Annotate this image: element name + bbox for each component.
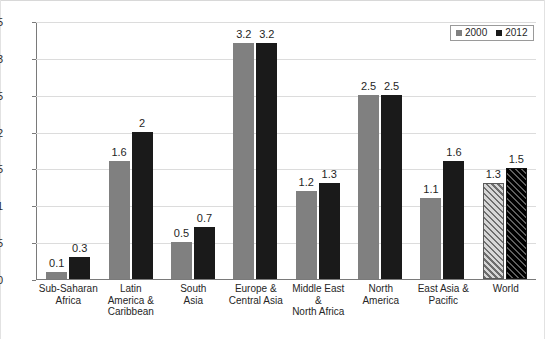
- bar-group: 1.31.5: [474, 22, 536, 279]
- bar-column: 2.5: [381, 22, 402, 279]
- bar-2012[interactable]: [194, 227, 215, 279]
- y-axis-tick-label: 0: [0, 274, 3, 286]
- bar-column: 1.6: [109, 22, 130, 279]
- x-axis-label-line: Asia: [163, 295, 224, 307]
- bar-group: 1.62: [99, 22, 161, 279]
- x-axis-category-labels: Sub-SaharanAfricaLatin America &Caribbea…: [37, 283, 537, 318]
- bar-column: 0.1: [46, 22, 67, 279]
- x-axis-label-line: Caribbean: [101, 306, 162, 318]
- bar-value-label: 1.5: [509, 154, 524, 165]
- y-axis-tick-mark: [32, 96, 36, 97]
- legend-label-2000: 2000: [465, 28, 487, 38]
- bar-2012[interactable]: [319, 183, 340, 279]
- y-axis-tick-label: 1.5: [0, 163, 3, 175]
- bar-2000[interactable]: [109, 161, 130, 279]
- x-axis-label-line: North Africa: [288, 306, 349, 318]
- bar-group: 1.21.3: [287, 22, 349, 279]
- bar-column: 0.3: [69, 22, 90, 279]
- bar-2000[interactable]: [358, 95, 379, 279]
- x-axis-label-line: Sub-Saharan: [38, 283, 99, 295]
- bar-2000[interactable]: [483, 183, 504, 279]
- x-axis-label-line: Middle East &: [288, 283, 349, 306]
- legend-label-2012: 2012: [505, 28, 527, 38]
- bar-value-label: 1.6: [111, 147, 126, 158]
- bar-value-label: 1.6: [446, 147, 461, 158]
- x-axis-label: World: [475, 283, 538, 318]
- legend-item-2012[interactable]: 2012: [496, 28, 527, 38]
- bar-group: 2.52.5: [349, 22, 411, 279]
- bar-2000[interactable]: [171, 242, 192, 279]
- x-axis-label-line: Pacific: [413, 295, 474, 307]
- bar-group: 1.11.6: [411, 22, 473, 279]
- bar-2012[interactable]: [443, 161, 464, 279]
- bar-value-label: 1.1: [423, 184, 438, 195]
- bar-column: 0.7: [194, 22, 215, 279]
- x-axis-label: Sub-SaharanAfrica: [37, 283, 100, 318]
- x-axis-label-line: East Asia &: [413, 283, 474, 295]
- bar-2012[interactable]: [132, 132, 153, 279]
- bar-2012[interactable]: [506, 168, 527, 279]
- bar-group: 0.10.3: [37, 22, 99, 279]
- bar-column: 1.1: [420, 22, 441, 279]
- bar-column: 1.3: [483, 22, 504, 279]
- bar-2012[interactable]: [69, 257, 90, 279]
- y-axis-tick-mark: [32, 280, 36, 281]
- series-2012-swatch-icon: [496, 30, 502, 36]
- bar-column: 1.6: [443, 22, 464, 279]
- bar-value-label: 2.5: [384, 81, 399, 92]
- caption-strip: [0, 332, 545, 339]
- bar-2000[interactable]: [296, 191, 317, 279]
- x-axis-label-line: Latin America &: [101, 283, 162, 306]
- bar-column: 3.2: [233, 22, 254, 279]
- bar-2000[interactable]: [233, 43, 254, 279]
- bar-group: 3.23.2: [224, 22, 286, 279]
- bar-value-label: 2: [139, 118, 145, 129]
- x-axis-label-line: Europe &: [226, 283, 287, 295]
- bar-column: 2: [132, 22, 153, 279]
- legend-item-2000[interactable]: 2000: [456, 28, 487, 38]
- y-axis-tick-label: 3.5: [0, 16, 3, 28]
- bar-value-label: 1.2: [299, 177, 314, 188]
- plot-area: 0.10.31.620.50.73.23.21.21.32.52.51.11.6…: [36, 22, 536, 280]
- bar-column: 2.5: [358, 22, 379, 279]
- chart-legend[interactable]: 2000 2012: [450, 25, 534, 41]
- bar-2012[interactable]: [381, 95, 402, 279]
- bar-value-label: 0.1: [49, 258, 64, 269]
- y-axis-tick-mark: [32, 243, 36, 244]
- y-axis-tick-mark: [32, 59, 36, 60]
- bar-group: 0.50.7: [162, 22, 224, 279]
- x-axis-line: [36, 279, 536, 280]
- x-axis-label: Middle East &North Africa: [287, 283, 350, 318]
- x-axis-label: Latin America &Caribbean: [100, 283, 163, 318]
- bar-value-label: 0.3: [72, 243, 87, 254]
- y-axis-tick-label: 2: [0, 127, 3, 139]
- bar-value-label: 3.2: [236, 29, 251, 40]
- x-axis-label: East Asia &Pacific: [412, 283, 475, 318]
- x-axis-label-line: America: [351, 295, 412, 307]
- x-axis-label-line: Central Asia: [226, 295, 287, 307]
- x-axis-label-line: World: [476, 283, 537, 295]
- bar-value-label: 3.2: [259, 29, 274, 40]
- x-axis-label: Europe &Central Asia: [225, 283, 288, 318]
- chart-top-border: [0, 0, 545, 1]
- bar-column: 1.2: [296, 22, 317, 279]
- y-axis-tick-label: 2.5: [0, 90, 3, 102]
- bar-groups: 0.10.31.620.50.73.23.21.21.32.52.51.11.6…: [37, 22, 536, 279]
- bar-2000[interactable]: [420, 198, 441, 279]
- bar-value-label: 0.7: [197, 213, 212, 224]
- bar-2012[interactable]: [256, 43, 277, 279]
- y-axis-tick-mark: [32, 169, 36, 170]
- x-axis-label-line: Africa: [38, 295, 99, 307]
- y-axis-tick-label: 3: [0, 53, 3, 65]
- x-axis-label-line: South: [163, 283, 224, 295]
- bar-value-label: 1.3: [322, 169, 337, 180]
- y-axis-tick-mark: [32, 22, 36, 23]
- bar-chart: 0.10.31.620.50.73.23.21.21.32.52.51.11.6…: [0, 0, 545, 339]
- series-2000-swatch-icon: [456, 30, 462, 36]
- bar-column: 1.3: [319, 22, 340, 279]
- y-axis-tick-label: 0.5: [0, 237, 3, 249]
- bar-2000[interactable]: [46, 272, 67, 279]
- bar-column: 0.5: [171, 22, 192, 279]
- y-axis-tick-mark: [32, 206, 36, 207]
- bar-value-label: 2.5: [361, 81, 376, 92]
